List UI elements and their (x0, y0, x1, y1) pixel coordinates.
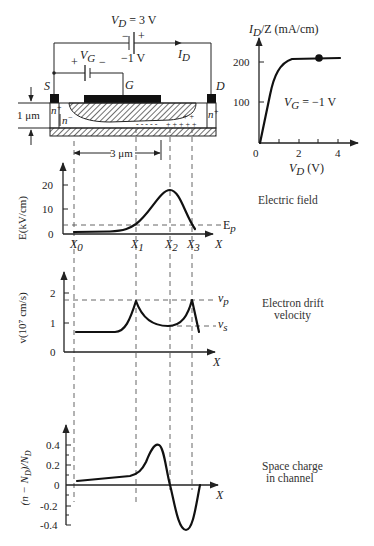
x3-label: X3 (186, 237, 200, 253)
ep-label: Ep (223, 218, 236, 234)
iv-ylabel: ID/Z (mA/cm) (248, 22, 319, 38)
positive-charges-upper: + + (183, 112, 195, 121)
efield-ytick-0: 0 (48, 228, 54, 240)
length-label: 3 μm (110, 147, 133, 159)
iv-ytick-200: 200 (233, 56, 250, 68)
operating-point-marker (315, 54, 323, 62)
efield-ytick-20: 20 (42, 179, 54, 191)
negative-charges: - - - - - (136, 120, 158, 129)
velocity-caption-line2: velocity (274, 309, 311, 322)
vd-label: VD = 3 V (111, 13, 157, 29)
vg-battery-plus: + (71, 55, 78, 69)
space-charge-chart: (n − ND)/ND 0.4 0.2 0 -0.2 -0.4 X Space … (18, 425, 323, 531)
velocity-ylabel: v(10⁷ cm/s) (16, 292, 29, 344)
drain-contact (207, 94, 216, 103)
vp-label: vp (218, 291, 229, 307)
vg-battery-minus: − (99, 55, 106, 69)
velocity-ytick-0: 0 (50, 346, 56, 358)
gate-contact (84, 95, 161, 103)
drain-label: D (215, 79, 225, 93)
x2-label: X2 (164, 237, 178, 253)
vd-battery-minus: − (122, 29, 129, 43)
mesfet-device: VD = 3 V − + ID −1 V VG + − S G (17, 13, 225, 160)
efield-curve (74, 190, 195, 232)
x0-label: X0 (69, 237, 83, 253)
efield-xlabel: X (214, 237, 223, 251)
velocity-ytick-1: 1 (50, 317, 56, 329)
position-reference-lines (74, 128, 192, 502)
velocity-caption-line1: Electron drift (262, 297, 324, 309)
charge-ytick-neg0.4: -0.4 (40, 519, 58, 531)
charge-caption-line2: in channel (266, 472, 314, 484)
charge-ytick-0.4: 0.4 (46, 439, 60, 451)
source-contact (50, 94, 59, 103)
vg-label: VG (80, 48, 95, 64)
efield-caption: Electric field (258, 194, 318, 206)
gate-circuit: VG + − (52, 48, 123, 95)
source-label: S (44, 79, 50, 93)
id-label: ID (177, 47, 190, 63)
charge-xlabel: X (215, 488, 224, 502)
vg-value: −1 V (121, 51, 146, 65)
charge-ytick-0.2: 0.2 (46, 459, 60, 471)
vs-label: vs (218, 317, 228, 333)
charge-curve (77, 445, 200, 530)
gate-label: G (125, 78, 134, 92)
charge-ylabel: (n − ND)/ND (18, 450, 33, 505)
figure-canvas: VD = 3 V − + ID −1 V VG + − S G (0, 0, 374, 546)
x1-label: X1 (130, 237, 144, 253)
iv-xtick-0: 0 (253, 147, 259, 159)
efield-ylabel: E(kV/cm) (16, 196, 29, 240)
efield-ytick-10: 10 (42, 203, 54, 215)
velocity-curve (76, 300, 199, 332)
velocity-xlabel: X (212, 355, 221, 369)
drain-n-plus: n+ (208, 107, 219, 120)
iv-annotation: VG = −1 V (284, 95, 337, 111)
charge-ytick-0: 0 (54, 479, 60, 491)
thickness-label: 1 μm (17, 109, 40, 121)
iv-xtick-2: 2 (296, 147, 302, 159)
electric-field-chart: E(kV/cm) 0 10 20 Ep X0 X1 X2 X3 X Electr… (16, 163, 318, 253)
iv-characteristic-chart: ID/Z (mA/cm) 100 200 0 2 4 VD (V) VG = −… (233, 22, 358, 177)
velocity-ytick-2: 2 (50, 287, 56, 299)
positive-charges: + + + + + (166, 120, 197, 129)
charge-ytick-neg0.2: -0.2 (40, 500, 57, 512)
iv-xtick-4: 4 (335, 147, 341, 159)
substrate (50, 128, 216, 136)
iv-xlabel: VD (V) (289, 161, 324, 177)
iv-ytick-100: 100 (233, 96, 250, 108)
vd-battery-plus: + (138, 29, 145, 43)
